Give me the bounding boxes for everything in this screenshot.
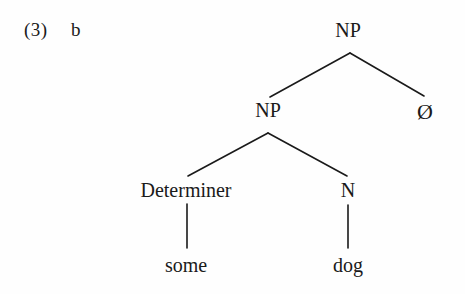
syntax-tree-figure: (3) b NPNPØDeterminerNsomedog [0,0,465,294]
tree-node-root-np: NP [335,19,361,41]
tree-edge-np-to-noun [268,133,347,176]
tree-node-null-node: Ø [417,101,433,123]
tree-edge-np-to-determiner [188,133,268,176]
tree-node-determiner: Determiner [140,179,231,201]
tree-node-inner-np: NP [255,99,281,121]
tree-leaf-leaf-dog: dog [333,254,363,276]
tree-leaf-leaf-some: some [165,254,207,276]
tree-edge-root-to-inner-np [270,53,350,97]
tree-edge-root-to-null [350,53,424,96]
tree-node-noun: N [341,179,355,201]
tree-branches [0,0,465,294]
